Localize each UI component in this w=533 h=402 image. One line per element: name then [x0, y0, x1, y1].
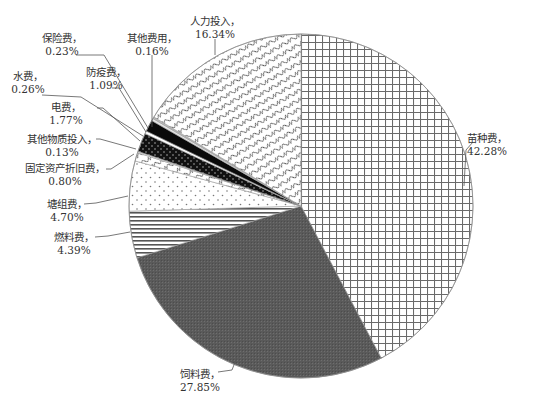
slice-label-value: 0.26%: [11, 83, 44, 95]
slice-label: 其他物质投入，0.13%: [27, 133, 97, 158]
slice-label-value: 42.28%: [467, 145, 507, 157]
pie-chart-svg: 苗种费，42.28%饲料费，27.85%燃料费，4.39%塘组费，4.70%固定…: [0, 0, 533, 402]
slice-label-value: 16.34%: [195, 28, 235, 40]
slice-label-name: 其他费用，: [127, 32, 177, 44]
slice-label: 燃料费，4.39%: [54, 231, 94, 256]
slice-label-value: 0.16%: [135, 45, 168, 57]
slice-label-value: 0.13%: [45, 146, 78, 158]
slice-label: 人力投入，16.34%: [190, 15, 240, 40]
slice-label: 水费，0.26%: [11, 70, 44, 95]
slice-label-name: 苗种费，: [467, 132, 507, 144]
slice-label: 其他费用，0.16%: [127, 32, 177, 57]
slice-label-value: 0.80%: [48, 175, 81, 187]
slice-label-value: 4.70%: [50, 211, 83, 223]
leader-line: [84, 196, 128, 204]
leader-line: [106, 154, 134, 169]
slice-label: 塘组费，4.70%: [47, 198, 87, 223]
slice-label: 保险费，0.23%: [42, 32, 82, 57]
slice-label: 饲料费，27.85%: [180, 368, 220, 393]
pie-slices: [129, 34, 473, 378]
slice-label-name: 保险费，: [42, 32, 82, 44]
slice-label-value: 0.23%: [45, 45, 78, 57]
leader-line: [96, 139, 136, 149]
slice-label-name: 其他物质投入，: [27, 133, 97, 145]
slice-label: 苗种费，42.28%: [467, 132, 507, 157]
slice-label-name: 固定资产折旧费，: [25, 162, 105, 174]
slice-label: 电费，1.77%: [49, 101, 82, 126]
slice-label-name: 防疫费，: [86, 66, 126, 78]
slice-label-name: 人力投入，: [190, 15, 240, 27]
leader-line: [112, 88, 146, 132]
slice-label-value: 4.39%: [57, 244, 90, 256]
leader-line: [97, 108, 140, 141]
slice-label-value: 1.77%: [49, 114, 82, 126]
slice-label-name: 电费，: [51, 101, 81, 113]
slice-label: 固定资产折旧费，0.80%: [25, 162, 105, 187]
leader-line: [95, 232, 130, 237]
slice-label: 防疫费，1.09%: [86, 66, 126, 91]
pie-chart: 苗种费，42.28%饲料费，27.85%燃料费，4.39%塘组费，4.70%固定…: [0, 0, 533, 402]
slice-label-value: 27.85%: [180, 381, 220, 393]
slice-label-value: 1.09%: [89, 79, 122, 91]
slice-label-name: 燃料费，: [54, 231, 94, 243]
slice-label-name: 塘组费，: [47, 198, 87, 210]
slice-label-name: 水费，: [13, 70, 43, 82]
slice-label-name: 饲料费，: [180, 368, 220, 380]
